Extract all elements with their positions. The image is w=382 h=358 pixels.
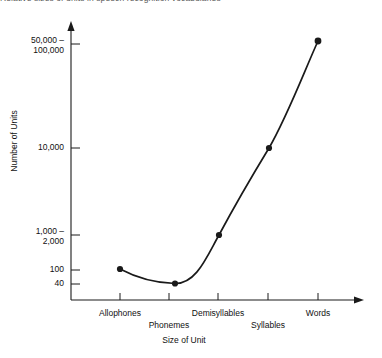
data-point-demisyllables[interactable]	[216, 232, 222, 238]
data-point-phonemes[interactable]	[172, 280, 178, 286]
y-axis-arrowhead	[67, 21, 74, 31]
x-axis-arrowhead	[354, 296, 364, 303]
data-point-words[interactable]	[315, 38, 322, 45]
data-points	[117, 38, 322, 287]
data-curve	[120, 41, 318, 284]
x-axis-title: Size of Unit	[124, 335, 244, 345]
x-tick-label-phonemes: Phonemes	[124, 320, 214, 330]
x-tick-label-syllables: Syllables	[223, 320, 313, 330]
x-tick-label-words: Words	[273, 308, 363, 318]
x-tick-label-allophones: Allophones	[75, 308, 165, 318]
data-point-syllables[interactable]	[266, 145, 272, 151]
y-tick-label-40: 40	[4, 279, 64, 289]
y-axis	[67, 21, 74, 300]
y-tick-label-100000: 50,000 – 100,000	[4, 36, 64, 55]
x-tick-label-demisyllables: Demisyllables	[173, 308, 263, 318]
y-axis-ticks	[71, 44, 80, 284]
line-chart: 50,000 – 100,000 10,000 1,000 – 2,000 10…	[0, 0, 382, 358]
x-axis-ticks	[120, 293, 318, 300]
y-tick-label-100: 100	[4, 265, 64, 275]
y-axis-title: Number of Units	[9, 81, 19, 201]
y-tick-label-2000: 1,000 – 2,000	[4, 227, 64, 246]
data-point-allophones[interactable]	[117, 266, 123, 272]
